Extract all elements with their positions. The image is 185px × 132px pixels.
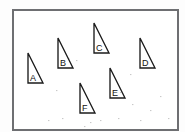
triangle-label-d: D — [142, 58, 149, 68]
triangle-label-f: F — [82, 103, 88, 113]
paper-speck — [76, 60, 77, 61]
paper-speck — [150, 110, 151, 111]
paper-speck — [130, 74, 131, 75]
triangle-label-a: A — [30, 73, 36, 83]
paper-speck — [140, 120, 141, 121]
grid-outer-border — [13, 10, 178, 130]
paper-speck — [100, 120, 101, 121]
triangle-label-e: E — [112, 88, 118, 98]
grid-figure: ABCDEF — [0, 0, 185, 132]
paper-speck — [84, 126, 85, 127]
paper-speck — [168, 118, 169, 119]
paper-speck — [48, 120, 49, 121]
worksheet-canvas: ABCDEF — [0, 0, 185, 132]
paper-speck — [160, 96, 161, 97]
paper-speck — [62, 118, 63, 119]
paper-speck — [120, 92, 121, 93]
paper-speck — [118, 118, 119, 119]
paper-speck — [90, 122, 91, 123]
triangle-label-b: B — [60, 58, 66, 68]
paper-speck — [56, 90, 57, 91]
paper-speck — [132, 104, 133, 105]
grid-border — [13, 10, 178, 130]
triangle-label-c: C — [96, 43, 103, 53]
